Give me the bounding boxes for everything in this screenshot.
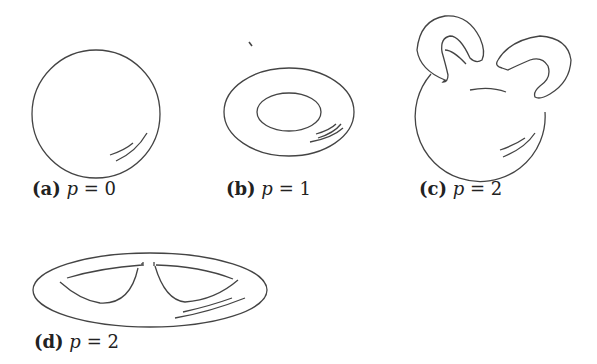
- equals: =: [470, 178, 485, 199]
- panel-tag: (d): [34, 331, 64, 352]
- caption-c: (c) p = 2: [419, 178, 502, 199]
- value: 0: [105, 178, 116, 199]
- flat-genus-two-shape: [33, 253, 267, 327]
- torus-shape: [224, 42, 354, 156]
- equals: =: [279, 178, 294, 199]
- variable: p: [69, 331, 81, 352]
- equals: =: [84, 178, 99, 199]
- value: 2: [491, 178, 502, 199]
- two-handled-sphere-shape: [415, 16, 571, 182]
- caption-d: (d) p = 2: [34, 331, 119, 352]
- sphere-shape: [32, 50, 160, 178]
- equals: =: [87, 331, 102, 352]
- panel-tag: (c): [419, 178, 447, 199]
- variable: p: [261, 178, 273, 199]
- value: 1: [299, 178, 310, 199]
- caption-a: (a) p = 0: [32, 178, 116, 199]
- panel-tag: (a): [32, 178, 61, 199]
- caption-b: (b) p = 1: [226, 178, 311, 199]
- panel-tag: (b): [226, 178, 256, 199]
- variable: p: [66, 178, 78, 199]
- value: 2: [107, 331, 118, 352]
- variable: p: [453, 178, 465, 199]
